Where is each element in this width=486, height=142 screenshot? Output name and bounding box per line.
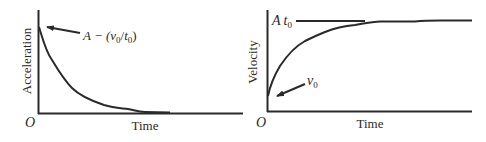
y-axis-label: Velocity [245, 40, 260, 84]
figure-canvas: A − (v0/t0) Acceleration O Time v0 At0 V… [0, 0, 486, 142]
x-axis-label: Time [132, 118, 159, 133]
initial-value-label: v0 [307, 73, 318, 90]
acceleration-chart: A − (v0/t0) Acceleration O Time [19, 10, 243, 133]
y-axis-label: Acceleration [19, 27, 34, 94]
origin-label: O [25, 115, 35, 130]
asymptote-label: At0 [271, 13, 292, 30]
velocity-chart: v0 At0 Velocity O Time [245, 10, 472, 131]
annotation-label: A − (v0/t0) [82, 28, 137, 45]
origin-label: O [256, 115, 266, 130]
x-axis-label: Time [357, 116, 384, 131]
initial-value-arrow [277, 84, 305, 96]
annotation-arrow [47, 27, 80, 33]
velocity-curve [268, 21, 472, 97]
